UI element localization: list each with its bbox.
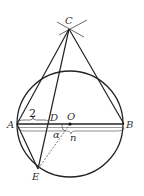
line-cb	[69, 29, 124, 124]
label-length-2: 2	[29, 107, 36, 120]
line-ca	[17, 29, 69, 124]
label-o: O	[67, 111, 75, 122]
label-e: E	[31, 171, 40, 182]
construction-arc-2	[59, 20, 87, 35]
point-o-dot	[68, 122, 71, 125]
geometry-diagram: C A B D O E 2 α n	[0, 0, 144, 196]
label-n: n	[70, 132, 76, 143]
label-a: A	[6, 119, 14, 130]
label-alpha: α	[53, 129, 60, 140]
line-ce	[38, 29, 69, 169]
label-b: B	[125, 119, 133, 130]
label-d: D	[49, 112, 58, 123]
label-c: C	[65, 15, 73, 26]
